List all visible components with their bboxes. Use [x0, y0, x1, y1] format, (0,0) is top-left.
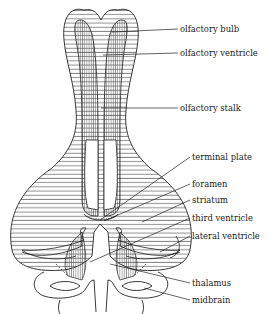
label-midbrain: midbrain: [192, 296, 230, 304]
label-thalamus: thalamus: [192, 279, 231, 287]
midbrain: [34, 272, 168, 314]
forebrain-outline: [11, 9, 192, 270]
label-striatum: striatum: [192, 196, 228, 204]
label-foramen: foramen: [192, 180, 227, 188]
label-olfactory-stalk: olfactory stalk: [180, 104, 241, 112]
label-olfactory-bulb: olfactory bulb: [180, 25, 239, 33]
label-terminal-plate: terminal plate: [192, 153, 252, 161]
label-third-ventricle: third ventricle: [192, 214, 253, 222]
label-lateral-ventricle: lateral ventricle: [192, 232, 260, 240]
label-olfactory-ventricle: olfactory ventricle: [180, 49, 258, 57]
